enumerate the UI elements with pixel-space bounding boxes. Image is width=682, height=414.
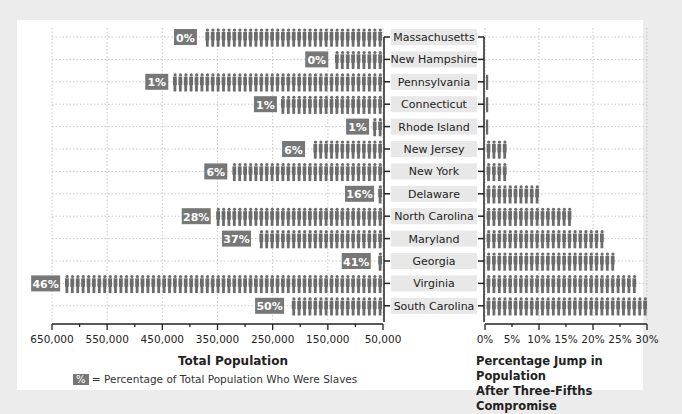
population-bar: 0%: [174, 29, 382, 47]
percent-jump-bar: [487, 230, 604, 248]
svg-text:0%: 0%: [307, 54, 326, 67]
state-label: New Jersey: [403, 143, 465, 156]
svg-text:25%: 25%: [608, 333, 631, 345]
left-x-axis: 650,000550,000450,000350,000250,000150,0…: [30, 324, 401, 345]
population-bar: 1%: [145, 73, 382, 91]
state-label: Connecticut: [401, 98, 468, 111]
svg-text:5%: 5%: [504, 333, 521, 345]
svg-text:41%: 41%: [343, 256, 369, 269]
legend: % = Percentage of Total Population Who W…: [73, 373, 357, 385]
svg-text:1%: 1%: [256, 99, 275, 112]
svg-text:30%: 30%: [635, 333, 658, 345]
svg-text:250,000: 250,000: [251, 333, 294, 345]
svg-text:46%: 46%: [32, 278, 58, 291]
svg-text:37%: 37%: [223, 233, 249, 246]
population-bar: 50%: [255, 297, 382, 315]
svg-text:650,000: 650,000: [30, 333, 73, 345]
percent-jump-bar: [487, 253, 615, 271]
svg-text:6%: 6%: [284, 144, 303, 157]
left-axis-title: Total Population: [143, 354, 323, 368]
right-axis-title-line1: Percentage Jump in Population: [476, 354, 676, 384]
svg-text:0%: 0%: [176, 32, 195, 45]
svg-text:20%: 20%: [581, 333, 604, 345]
svg-text:450,000: 450,000: [141, 333, 184, 345]
legend-swatch: %: [73, 374, 89, 385]
svg-text:6%: 6%: [206, 166, 225, 179]
state-label: New Hampshire: [390, 53, 477, 66]
right-axis-title: Percentage Jump in Population After Thre…: [476, 354, 676, 414]
percent-jump-bar: [487, 297, 647, 315]
population-bar: 28%: [182, 208, 382, 226]
percent-jump-bar: [486, 120, 488, 135]
percent-jump-bar: [487, 185, 539, 203]
state-label: Rhode Island: [398, 121, 469, 134]
svg-text:16%: 16%: [346, 188, 372, 201]
population-bar: 1%: [254, 96, 382, 114]
state-labels: MassachusettsNew HampshirePennsylvaniaCo…: [384, 29, 484, 322]
percent-jump-bar: [487, 141, 507, 159]
population-bar: 16%: [345, 185, 382, 203]
state-label: Maryland: [408, 233, 459, 246]
svg-text:50,000: 50,000: [365, 333, 402, 345]
population-bar: 1%: [346, 118, 382, 136]
state-label: Virginia: [413, 277, 454, 290]
right-axis-title-line2: After Three-Fifths Compromise: [476, 384, 676, 414]
state-label: Massachusetts: [393, 31, 475, 44]
percent-jump-bar: [487, 163, 507, 181]
population-bar: 0%: [305, 51, 382, 69]
state-label: South Carolina: [394, 300, 475, 313]
state-label: Georgia: [412, 255, 455, 268]
right-x-axis: 0%5%10%15%20%25%30%: [477, 324, 659, 345]
svg-text:150,000: 150,000: [306, 333, 349, 345]
percent-jump-bar: [487, 208, 572, 226]
svg-text:10%: 10%: [527, 333, 550, 345]
state-label: Pennsylvania: [398, 76, 470, 89]
population-bar: 37%: [222, 230, 382, 248]
svg-text:28%: 28%: [183, 211, 209, 224]
population-bar: 41%: [342, 253, 382, 271]
right-gridlines: [485, 28, 647, 322]
percent-jump-bar: [487, 275, 637, 293]
svg-text:550,000: 550,000: [85, 333, 128, 345]
svg-text:50%: 50%: [256, 300, 282, 313]
svg-text:1%: 1%: [147, 76, 166, 89]
population-bar: 6%: [282, 141, 382, 159]
percent-jump-bar: [486, 97, 488, 112]
population-bar: 6%: [204, 163, 382, 181]
population-bar: 46%: [31, 275, 382, 293]
svg-text:0%: 0%: [477, 333, 494, 345]
state-label: Delaware: [408, 188, 460, 201]
percent-jump-bar: [486, 75, 488, 90]
svg-text:350,000: 350,000: [196, 333, 239, 345]
svg-text:1%: 1%: [348, 121, 367, 134]
legend-text: = Percentage of Total Population Who Wer…: [92, 373, 357, 385]
svg-text:15%: 15%: [554, 333, 577, 345]
state-label: North Carolina: [394, 210, 474, 223]
state-label: New York: [409, 165, 460, 178]
